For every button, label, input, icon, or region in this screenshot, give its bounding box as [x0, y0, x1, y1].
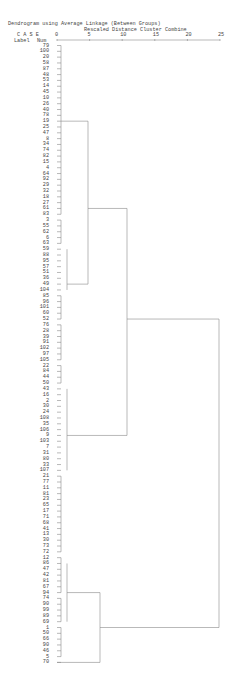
- dendrogram-plot: [0, 0, 236, 679]
